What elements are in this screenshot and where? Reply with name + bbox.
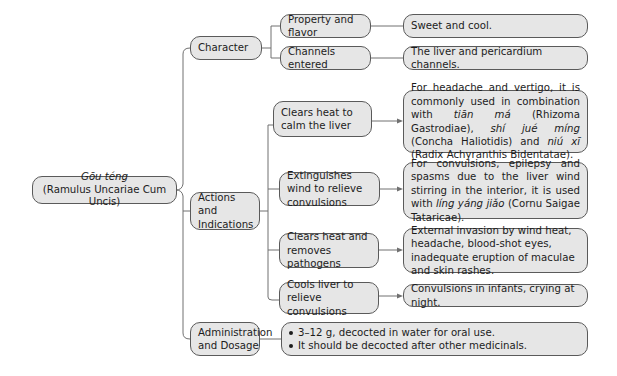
root-subtitle: (Ramulus Uncariae Cum Uncis)	[40, 184, 169, 209]
node-label: Property and flavor	[288, 13, 363, 40]
detail-text: External invasion by wind heat, headache…	[411, 224, 580, 278]
branch-administration-dosage: Administration and Dosage	[190, 322, 260, 356]
detail-clears-heat-removes-pathogens: External invasion by wind heat, headache…	[403, 228, 588, 273]
node-clears-heat-removes-pathogens: Clears heat and removes pathogens	[279, 233, 379, 268]
node-label: Cools liver to relieve convulsions	[287, 278, 371, 318]
text-segment: (Concha Haliotidis) and	[411, 136, 547, 147]
branch-label: Administration and Dosage	[198, 326, 273, 353]
dosage-bullet: 3–12 g, decocted in water for oral use.	[289, 326, 580, 339]
detail-clears-heat-calm-liver: For headache and vertigo, it is commonly…	[403, 90, 588, 153]
detail-dosage: 3–12 g, decocted in water for oral use. …	[281, 322, 588, 356]
detail-extinguishes-wind: For convulsions, epilepsy and spasms due…	[403, 162, 588, 219]
branch-label: Character	[198, 41, 248, 54]
dosage-list: 3–12 g, decocted in water for oral use. …	[289, 326, 580, 353]
detail-text: The liver and pericardium channels.	[411, 45, 580, 72]
node-label: Channels entered	[288, 45, 363, 72]
branch-actions-indications: Actions and Indications	[190, 192, 260, 230]
connector-actions-spine	[260, 125, 279, 300]
node-cools-liver: Cools liver to relieve convulsions	[279, 282, 379, 314]
node-label: Clears heat and removes pathogens	[287, 230, 371, 270]
herb-name: líng yáng jiǎo	[436, 198, 505, 209]
root-title: Gōu téng	[81, 171, 128, 182]
detail-text: Sweet and cool.	[411, 19, 492, 32]
detail-rich-text: For headache and vertigo, it is commonly…	[411, 81, 580, 161]
detail-rich-text: For convulsions, epilepsy and spasms due…	[411, 157, 580, 224]
herb-name: shí jué míng	[491, 123, 581, 134]
node-extinguishes-wind: Extinguishes wind to relieve convulsions	[279, 172, 380, 206]
connector-root-lower	[176, 190, 190, 339]
node-property-flavor: Property and flavor	[280, 14, 371, 38]
node-label: Extinguishes wind to relieve convulsions	[287, 169, 372, 209]
branch-character: Character	[190, 36, 262, 60]
herb-name: niú xī	[547, 136, 580, 147]
herb-name: tiān má	[454, 109, 511, 120]
node-label: Clears heat to calm the liver	[281, 106, 364, 133]
detail-channels-entered: The liver and pericardium channels.	[403, 46, 588, 70]
detail-property-flavor: Sweet and cool.	[403, 14, 588, 38]
detail-text: Convulsions in infants, crying at night.	[411, 282, 580, 309]
connector-character	[262, 26, 280, 58]
dosage-bullet: It should be decocted after other medici…	[289, 339, 580, 352]
detail-cools-liver: Convulsions in infants, crying at night.	[403, 284, 588, 307]
root-node: Gōu téng (Ramulus Uncariae Cum Uncis)	[32, 176, 177, 204]
node-channels-entered: Channels entered	[280, 46, 371, 70]
connector-root	[176, 48, 190, 190]
node-clears-heat-calm-liver: Clears heat to calm the liver	[273, 101, 372, 137]
branch-label: Actions and Indications	[198, 191, 253, 231]
